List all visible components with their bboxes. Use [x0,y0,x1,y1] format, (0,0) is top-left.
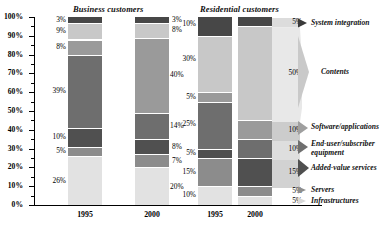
y-tick-90: 90% [29,36,35,37]
group-title-business: Business customers [73,4,144,14]
legend-arrow-added-value-services [298,159,310,177]
value-label-b1995-servers: 5% [44,147,66,154]
x-tick-label-residential-2000: 2000 [238,210,272,219]
legend-label-added-value-services[interactable]: Added-value services [311,163,377,172]
value-label-b2000-servers: 7% [172,157,182,164]
value-label-r1995-added-value: 5% [174,149,196,156]
segment-contents[interactable] [198,36,232,92]
y-tick-0: 0% [29,205,35,206]
y-tick-label-30: 30% [8,145,23,153]
segment-divider [198,92,232,93]
value-label-b1995-end-user: 39% [42,87,66,94]
value-label-b1995-added-value: 10% [42,133,66,140]
legend-arrow-software-applications [298,121,309,135]
segment-divider [68,55,102,56]
segment-divider [135,23,169,24]
y-tick-85 [31,45,35,46]
segment-divider [238,196,272,197]
segment-added-value-services[interactable] [238,158,272,186]
segment-system-integration[interactable] [198,17,232,36]
y-tick-100: 100% [29,17,35,18]
segment-divider [68,40,102,41]
segment-infrastructures[interactable] [68,156,102,205]
value-label-r1995-infrastructures: 10% [172,191,196,198]
bar-business-2000[interactable] [135,17,169,205]
segment-end-user-equipment[interactable] [238,139,272,158]
value-label-r1995-software: 5% [174,93,196,100]
segment-divider [198,158,232,159]
segment-added-value-services[interactable] [68,128,102,147]
value-label-r1995-servers: 15% [172,168,196,175]
segment-infrastructures[interactable] [135,167,169,205]
legend-label-software-applications[interactable]: Software/applications [311,122,379,131]
group-title-residential: Residential customers [200,4,279,14]
segment-servers[interactable] [68,147,102,156]
value-label-r1995-contents: 30% [172,55,196,62]
segment-end-user-equipment[interactable] [135,113,169,139]
segment-divider [198,149,232,150]
y-tick-65 [31,83,35,84]
segment-software-applications[interactable] [68,40,102,55]
segment-contents[interactable] [68,23,102,40]
y-tick-40: 40% [29,130,35,131]
segment-divider [238,26,272,27]
segment-divider [135,139,169,140]
y-tick-70: 70% [29,73,35,74]
segment-servers[interactable] [198,158,232,186]
value-label-r1995-end-user: 25% [172,120,196,127]
segment-software-applications[interactable] [198,92,232,101]
legend-arrow-end-user-equipment [298,140,309,154]
legend-label-end-user-equipment-line1[interactable]: End-user/subscriber [311,139,375,148]
segment-divider [135,154,169,155]
bar-residential-2000[interactable] [238,17,272,205]
y-tick-label-70: 70% [8,70,23,78]
segment-divider [135,167,169,168]
segment-divider [238,139,272,140]
legend-arrow-infrastructures [298,197,307,205]
y-tick-label-60: 60% [8,88,23,96]
y-tick-label-90: 90% [8,32,23,40]
segment-divider [238,186,272,187]
segment-software-applications[interactable] [135,38,169,113]
y-tick-30: 30% [29,149,35,150]
segment-system-integration[interactable] [238,17,272,26]
y-tick-label-40: 40% [8,126,23,134]
legend-label-contents[interactable]: Contents [321,67,349,76]
segment-added-value-services[interactable] [198,149,232,158]
segment-divider [68,156,102,157]
segment-divider [238,158,272,159]
bar-residential-1995[interactable] [198,17,232,205]
legend-label-end-user-equipment-line2[interactable]: equipment [311,148,344,157]
legend-label-system-integration[interactable]: System integration [311,18,369,27]
segment-end-user-equipment[interactable] [198,102,232,149]
value-label-b1995-software: 8% [44,43,66,50]
y-tick-25 [31,158,35,159]
y-tick-80: 80% [29,55,35,56]
y-tick-95 [31,26,35,27]
y-tick-55 [31,102,35,103]
y-tick-45 [31,120,35,121]
legend-arrow-servers [298,186,307,194]
segment-servers[interactable] [135,154,169,167]
value-label-b1995-contents: 9% [44,27,66,34]
legend-label-servers[interactable]: Servers [311,185,334,194]
y-tick-label-0: 0% [12,201,23,209]
x-tick-label-business-1995: 1995 [68,210,102,219]
y-tick-label-50: 50% [8,107,23,115]
bar-business-1995[interactable] [68,17,102,205]
segment-servers[interactable] [238,186,272,195]
y-tick-75 [31,64,35,65]
segment-infrastructures[interactable] [198,186,232,205]
segment-infrastructures[interactable] [238,196,272,205]
segment-added-value-services[interactable] [135,139,169,154]
segment-contents[interactable] [135,23,169,38]
legend-arrow-contents [298,36,310,108]
y-tick-60: 60% [29,92,35,93]
segment-contents[interactable] [238,26,272,120]
value-label-b1995-system-integration: 3% [44,16,66,23]
segment-divider [238,120,272,121]
segment-divider [68,128,102,129]
segment-end-user-equipment[interactable] [68,55,102,128]
segment-software-applications[interactable] [238,120,272,139]
legend-label-infrastructures[interactable]: Infrastructures [311,196,359,205]
